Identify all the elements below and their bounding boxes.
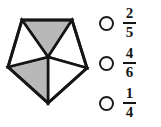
fraction-c-denominator: 4 <box>126 104 134 120</box>
fraction-a: 2 5 <box>123 6 136 40</box>
answer-option-a[interactable]: 2 5 <box>99 6 136 40</box>
fraction-c: 1 4 <box>123 86 136 120</box>
radio-button-icon-a[interactable] <box>99 16 114 31</box>
fraction-a-numerator: 2 <box>126 6 134 22</box>
pentagon-figure <box>0 0 96 127</box>
answer-option-b[interactable]: 4 6 <box>99 46 136 80</box>
fraction-b-denominator: 6 <box>126 64 134 80</box>
radio-button-icon-c[interactable] <box>99 96 114 111</box>
fraction-multiple-choice-question: 2 5 4 6 1 4 <box>0 0 161 127</box>
answer-option-c[interactable]: 1 4 <box>99 86 136 120</box>
fraction-b-numerator: 4 <box>126 46 134 62</box>
fraction-c-numerator: 1 <box>126 86 134 102</box>
fraction-a-denominator: 5 <box>126 24 134 40</box>
radio-button-icon-b[interactable] <box>99 56 114 71</box>
answer-options-list: 2 5 4 6 1 4 <box>99 0 161 127</box>
pentagon-svg <box>0 0 96 127</box>
fraction-b: 4 6 <box>123 46 136 80</box>
